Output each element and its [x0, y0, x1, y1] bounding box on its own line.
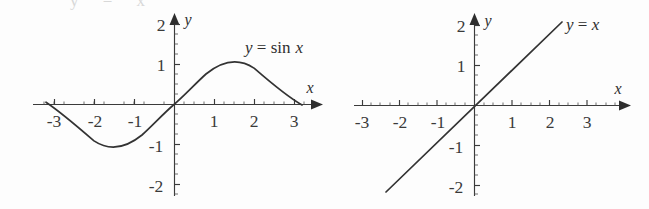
line-y-axis-name: y: [482, 12, 492, 30]
x-axis-arrow-icon: [311, 100, 323, 110]
line-eq-sign: =: [574, 15, 592, 34]
sine-y-axis-name: y: [182, 11, 192, 29]
line-x-axis-name: x: [613, 80, 621, 97]
sine-x-axis-name: x: [305, 79, 313, 96]
sine-ytick--1: -1: [149, 136, 164, 156]
sine-eq-fn: sin: [271, 38, 291, 57]
sine-panel: -3 -2 -1 1 2 3 2 1 -1 -2 x y y = sinx: [0, 0, 340, 209]
line-xtick--3: -3: [355, 112, 370, 132]
line-xtick-1: 1: [508, 112, 517, 132]
line-xtick--2: -2: [393, 112, 408, 132]
sine-xtick--3: -3: [47, 111, 62, 131]
line-eq-lhs: y: [564, 15, 574, 34]
line-xtick-2: 2: [546, 112, 555, 132]
line-xtick-3: 3: [583, 112, 592, 132]
x-axis-arrow-icon: [619, 101, 631, 111]
line-x-tick-labels: -3 -2 -1 1 2 3: [355, 112, 592, 132]
line-panel: -3 -2 -1 1 2 3 2 1 -1 -2 x y y = x: [340, 0, 649, 209]
line-eq-arg: x: [591, 15, 600, 34]
sine-ytick-2: 2: [157, 15, 166, 35]
sine-y-tick-labels: 2 1 -1 -2: [149, 15, 166, 196]
line-ytick--1: -1: [449, 137, 464, 157]
line-equation-label: y = x: [564, 15, 600, 34]
line-ytick-2: 2: [457, 16, 466, 36]
sine-eq-lhs: y: [243, 38, 253, 57]
y-axis-arrow-icon: [470, 13, 480, 25]
sine-xtick--2: -2: [88, 111, 103, 131]
line-y-tick-labels: 2 1 -1 -2: [449, 16, 466, 197]
figure-canvas: y = x: [0, 0, 649, 209]
sine-eq-arg: x: [294, 38, 303, 57]
sine-xtick--1: -1: [128, 111, 143, 131]
sine-eq-sign: =: [253, 38, 271, 57]
line-y-axis: [470, 13, 480, 196]
sine-ytick--2: -2: [149, 176, 164, 196]
line-xtick--1: -1: [431, 112, 446, 132]
sine-x-tick-labels: -3 -2 -1 1 2 3: [47, 111, 299, 131]
svg-text:y = x: y = x: [564, 15, 600, 34]
y-axis-arrow-icon: [170, 13, 180, 25]
sine-xtick-3: 3: [290, 111, 299, 131]
sine-xtick-1: 1: [210, 111, 219, 131]
line-ytick--2: -2: [449, 177, 464, 197]
line-x-minor-ticks: [371, 103, 615, 106]
line-x-axis: [354, 101, 631, 111]
line-ytick-1: 1: [457, 56, 466, 76]
sine-xtick-2: 2: [250, 111, 259, 131]
svg-text:y = sinx: y = sinx: [243, 38, 303, 57]
sine-ytick-1: 1: [157, 55, 166, 75]
sine-equation-label: y = sinx: [243, 38, 303, 57]
